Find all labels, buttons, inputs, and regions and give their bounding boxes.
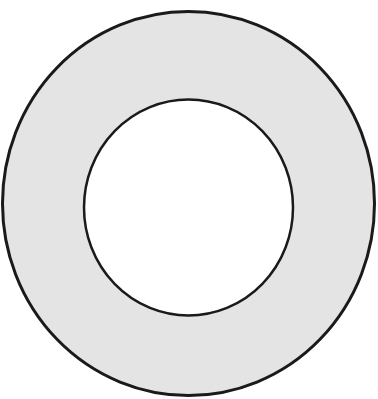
- ring-figure: [0, 0, 378, 399]
- ring-canvas: [0, 0, 378, 399]
- inner-circle-hole: [84, 100, 293, 316]
